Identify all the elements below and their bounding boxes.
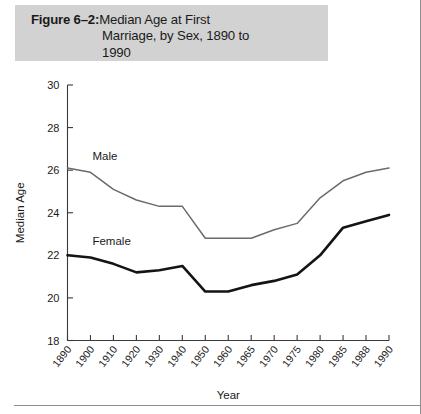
x-tick-label: 1980 (302, 343, 326, 369)
x-tick-label: 1988 (348, 343, 372, 369)
y-tick-label: 22 (47, 249, 59, 261)
x-tick-label: 1940 (165, 343, 189, 369)
median-age-line-chart: 18202224262830 1890190019101920193019401… (0, 0, 421, 414)
y-tick-label: 18 (47, 335, 59, 347)
x-tick-label: 1965 (233, 343, 257, 369)
x-axis-tick-marks (68, 335, 390, 341)
y-axis-tick-marks (68, 85, 74, 341)
y-axis-title: Median Age (14, 182, 26, 243)
x-tick-label: 1910 (96, 343, 120, 369)
y-tick-label: 28 (47, 122, 59, 134)
series-line-female (68, 215, 390, 292)
x-tick-label: 1960 (210, 343, 234, 369)
x-axis-title: Year (217, 389, 240, 401)
x-tick-label: 1890 (50, 343, 74, 369)
x-tick-label: 1985 (325, 343, 349, 369)
series-line-male (68, 168, 390, 238)
axis-frame (68, 85, 390, 341)
x-axis-tick-labels: 1890190019101920193019401950196019651970… (50, 343, 395, 369)
y-axis-tick-labels: 18202224262830 (47, 79, 59, 347)
series-label-male: Male (92, 150, 117, 162)
y-tick-label: 26 (47, 164, 59, 176)
x-tick-label: 1990 (371, 343, 395, 369)
y-tick-label: 20 (47, 292, 59, 304)
x-tick-label: 1950 (188, 343, 212, 369)
x-tick-label: 1920 (119, 343, 143, 369)
series-label-female: Female (92, 235, 130, 247)
x-tick-label: 1970 (256, 343, 280, 369)
x-tick-label: 1900 (73, 343, 97, 369)
y-tick-label: 30 (47, 79, 59, 91)
y-tick-label: 24 (47, 207, 59, 219)
x-tick-label: 1930 (142, 343, 166, 369)
chart-container: 18202224262830 1890190019101920193019401… (0, 0, 421, 414)
x-tick-label: 1975 (279, 343, 303, 369)
